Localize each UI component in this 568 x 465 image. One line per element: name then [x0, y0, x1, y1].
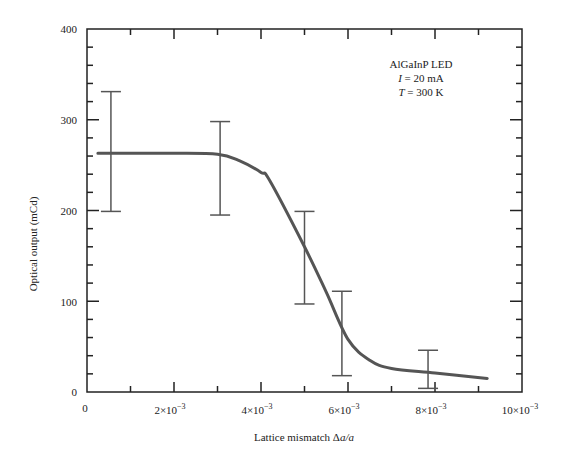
legend-annotation: AlGaInP LED I = 20 mA T = 300 K: [390, 58, 453, 98]
plot-frame: [87, 29, 522, 392]
y-tick-label: 0: [72, 386, 78, 398]
y-tick-label: 300: [61, 114, 78, 126]
y-axis-title: Optical output (mCd): [27, 196, 40, 291]
x-tick-label: 0: [82, 402, 88, 414]
y-tick-label: 200: [61, 205, 78, 217]
svg-text:T = 300 K: T = 300 K: [398, 86, 443, 98]
y-tick-label: 400: [61, 23, 78, 35]
error-bars: [101, 92, 438, 389]
chart-canvas: 400 300 200 100 0 0 2×10−3 4×10−3 6×10−3…: [0, 0, 568, 465]
x-tick-label: 8×10−3: [415, 402, 446, 416]
x-tick-label: 10×10−3: [502, 402, 539, 416]
y-tick-label: 100: [61, 296, 78, 308]
x-tick-label: 4×10−3: [241, 402, 272, 416]
x-axis-title: Lattice mismatch Δa/a: [254, 431, 354, 443]
axis-ticks: [87, 29, 522, 392]
svg-text:AlGaInP LED: AlGaInP LED: [390, 58, 453, 70]
x-tick-label: 6×10−3: [328, 402, 359, 416]
x-tick-label: 2×10−3: [154, 402, 185, 416]
fit-curve: [98, 153, 487, 378]
svg-text:I = 20 mA: I = 20 mA: [397, 72, 444, 84]
